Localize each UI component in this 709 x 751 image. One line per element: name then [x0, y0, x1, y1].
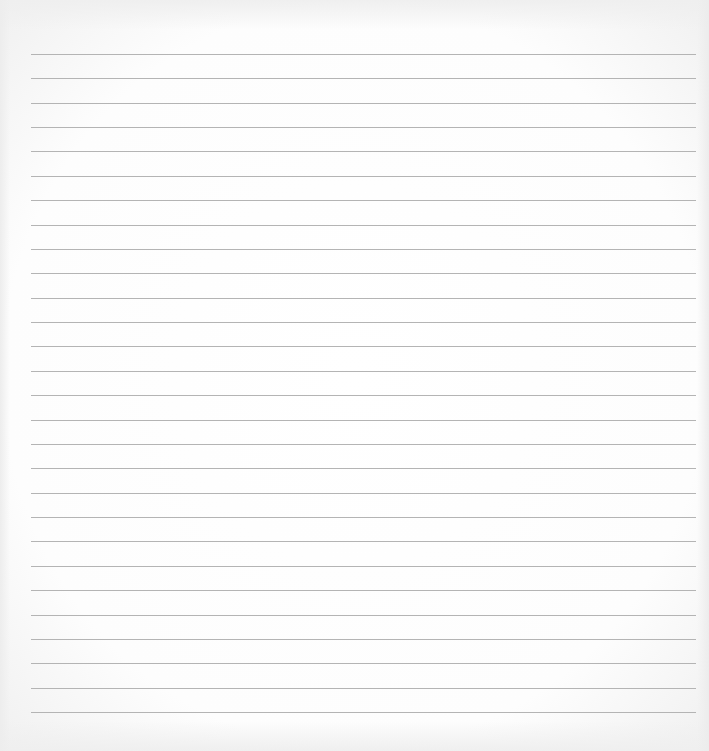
ruled-line [31, 468, 696, 469]
paper-shadow-bottom [0, 721, 709, 751]
ruled-line [31, 225, 696, 226]
ruled-line [31, 78, 696, 79]
paper-shadow-top [0, 0, 709, 30]
ruled-line [31, 127, 696, 128]
ruled-line [31, 688, 696, 689]
ruled-line [31, 249, 696, 250]
ruled-line [31, 590, 696, 591]
ruled-line [31, 712, 696, 713]
ruled-line [31, 517, 696, 518]
ruled-line [31, 54, 696, 55]
ruled-line [31, 298, 696, 299]
ruled-line [31, 444, 696, 445]
paper-shadow-right [697, 0, 709, 751]
ruled-line [31, 566, 696, 567]
ruled-line [31, 151, 696, 152]
paper-shadow-left [0, 0, 10, 751]
ruled-line [31, 176, 696, 177]
ruled-line [31, 371, 696, 372]
ruled-line [31, 663, 696, 664]
ruled-line [31, 420, 696, 421]
ruled-line [31, 395, 696, 396]
ruled-line [31, 322, 696, 323]
ruled-line [31, 103, 696, 104]
ruled-line [31, 639, 696, 640]
ruled-line [31, 615, 696, 616]
ruled-line [31, 273, 696, 274]
ruled-line [31, 493, 696, 494]
ruled-line [31, 200, 696, 201]
ruled-line [31, 541, 696, 542]
ruled-line [31, 346, 696, 347]
